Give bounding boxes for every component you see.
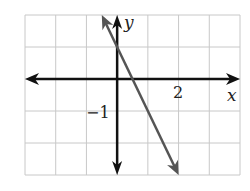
y-tick-label: −1 [86,103,110,122]
x-tick-label: 2 [173,83,183,102]
x-axis-label: x [227,85,237,105]
chart: y x 2 −1 [0,0,250,191]
plot-line [102,15,179,175]
axes [25,15,240,175]
y-axis-label: y [123,12,134,32]
grid [25,15,240,175]
